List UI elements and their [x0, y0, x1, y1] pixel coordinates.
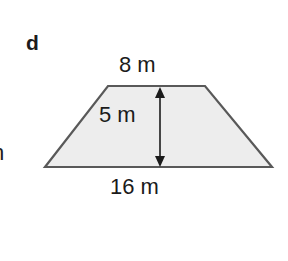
height-dimension-label: 5 m: [99, 104, 136, 126]
bottom-side-dimension-label: 16 m: [110, 176, 159, 198]
trapezoid-diagram-svg: [0, 0, 288, 261]
trapezoid-shape: [45, 86, 272, 167]
part-letter-label: d: [26, 32, 39, 53]
top-side-dimension-label: 8 m: [119, 54, 156, 76]
figure-canvas: d 8 m 5 m 16 m n: [0, 0, 288, 261]
cropped-neighbor-text: n: [0, 142, 4, 164]
